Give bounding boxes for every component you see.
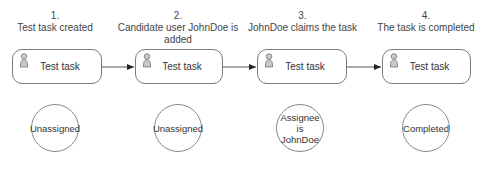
- state-text: Unassigned: [30, 123, 80, 134]
- state-text: Completed: [403, 123, 449, 134]
- state-text: Assignee is: [277, 112, 323, 134]
- task-node-2[interactable]: Test task: [135, 49, 223, 84]
- step-2-label: 2. Candidate user JohnDoe is added: [113, 10, 243, 46]
- task-name: Test task: [136, 61, 222, 72]
- state-circle-1: Unassigned: [31, 104, 79, 152]
- step-title: Test task created: [5, 22, 105, 34]
- step-title-2: added: [113, 34, 243, 46]
- step-title: The task is completed: [366, 22, 481, 34]
- step-4-label: 4. The task is completed: [366, 10, 481, 34]
- state-text: Unassigned: [153, 123, 203, 134]
- step-number: 4.: [366, 10, 481, 22]
- step-number: 1.: [5, 10, 105, 22]
- state-text-2: JohnDoe: [277, 134, 323, 145]
- task-name: Test task: [13, 61, 101, 72]
- step-title: Candidate user JohnDoe is: [113, 22, 243, 34]
- step-title: JohnDoe claims the task: [240, 22, 365, 34]
- task-name: Test task: [258, 61, 346, 72]
- step-3-label: 3. JohnDoe claims the task: [240, 10, 365, 34]
- state-circle-2: Unassigned: [154, 104, 202, 152]
- task-node-3[interactable]: Test task: [257, 49, 347, 84]
- state-circle-3: Assignee isJohnDoe: [276, 104, 324, 152]
- task-node-1[interactable]: Test task: [12, 49, 102, 84]
- step-number: 2.: [113, 10, 243, 22]
- step-1-label: 1. Test task created: [5, 10, 105, 34]
- state-circle-4: Completed: [402, 104, 450, 152]
- task-node-4[interactable]: Test task: [382, 49, 471, 84]
- step-number: 3.: [240, 10, 365, 22]
- task-name: Test task: [383, 61, 470, 72]
